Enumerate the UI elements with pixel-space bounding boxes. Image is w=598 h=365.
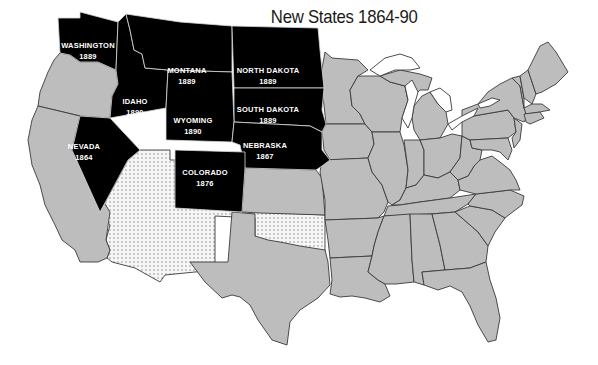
svg-text:1890: 1890: [126, 108, 144, 117]
svg-text:1889: 1889: [178, 77, 196, 86]
svg-text:MONTANA: MONTANA: [167, 66, 207, 75]
svg-text:IDAHO: IDAHO: [122, 97, 147, 106]
svg-text:1889: 1889: [79, 52, 97, 61]
svg-text:1890: 1890: [184, 127, 202, 136]
svg-text:NEBRASKA: NEBRASKA: [243, 141, 287, 150]
svg-text:1876: 1876: [196, 179, 214, 188]
svg-text:1889: 1889: [259, 116, 277, 125]
svg-text:NORTH DAKOTA: NORTH DAKOTA: [237, 66, 300, 75]
svg-text:SOUTH DAKOTA: SOUTH DAKOTA: [237, 105, 300, 114]
svg-text:1864: 1864: [75, 153, 93, 162]
svg-text:NEVADA: NEVADA: [68, 142, 101, 151]
state-connecticut-ri: [524, 112, 544, 124]
state-north-dakota: [232, 26, 324, 88]
svg-text:1889: 1889: [259, 77, 277, 86]
state-maine: [528, 42, 568, 94]
svg-text:WYOMING: WYOMING: [174, 116, 213, 125]
state-kansas: [242, 168, 325, 215]
svg-text:WASHINGTON: WASHINGTON: [61, 41, 115, 50]
state-iowa: [322, 124, 374, 160]
svg-text:1867: 1867: [256, 152, 274, 161]
state-florida: [422, 262, 500, 342]
us-map: WASHINGTON 1889 MONTANA 1889 NORTH DAKOT…: [0, 0, 598, 365]
svg-text:COLORADO: COLORADO: [182, 168, 227, 177]
